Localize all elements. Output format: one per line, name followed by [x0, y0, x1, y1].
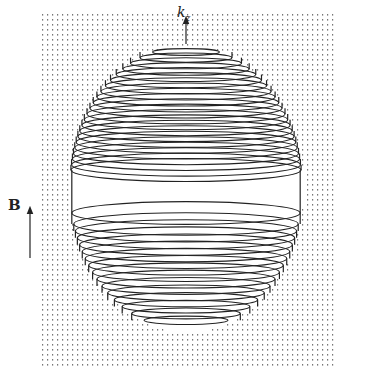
fermi-sphere-diagram — [0, 0, 371, 388]
sphere-landau-tubes — [71, 49, 301, 325]
field-label: B — [8, 196, 21, 214]
kz-axis-label: kz — [177, 4, 190, 23]
